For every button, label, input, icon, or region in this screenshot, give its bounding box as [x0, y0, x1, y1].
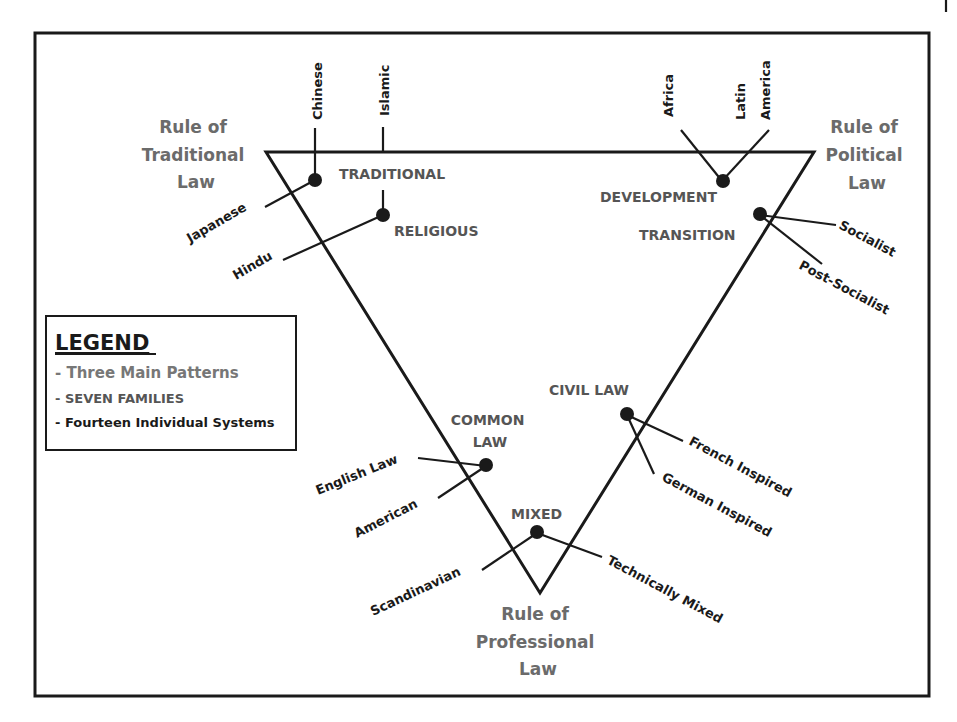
pattern-professional: Rule of Professional Law: [476, 604, 601, 679]
dot-common-law: [479, 458, 493, 472]
system-scandinavian: Scandinavian: [368, 564, 463, 619]
dot-religious: [376, 208, 390, 222]
pattern-traditional: Rule of Traditional Law: [142, 117, 251, 192]
system-technically-mixed: Technically Mixed: [605, 552, 726, 626]
system-post-socialist: Post-Socialist: [797, 257, 892, 317]
family-civil-law: CIVIL LAW: [549, 382, 629, 398]
family-transition: TRANSITION: [639, 227, 736, 243]
system-american: American: [352, 496, 420, 541]
system-english-law: English Law: [314, 451, 400, 497]
system-africa: Africa: [661, 74, 676, 117]
legal-families-diagram: Rule of Traditional Law Rule of Politica…: [0, 0, 957, 722]
legend-title: LEGEND: [55, 331, 149, 355]
connector-lines: [265, 127, 836, 570]
dot-traditional: [308, 173, 322, 187]
legend-item-patterns: - Three Main Patterns: [55, 364, 239, 382]
family-development: DEVELOPMENT: [600, 189, 717, 205]
family-mixed: MIXED: [511, 506, 562, 522]
family-common-law: COMMON LAW: [451, 412, 530, 450]
pattern-political: Rule of Political Law: [825, 117, 908, 193]
dot-transition: [753, 207, 767, 221]
dot-development: [716, 174, 730, 188]
system-japanese: Japanese: [183, 199, 249, 246]
system-chinese: Chinese: [310, 62, 325, 120]
system-socialist: Socialist: [837, 217, 899, 259]
system-hindu: Hindu: [230, 248, 275, 283]
system-america: America: [758, 60, 773, 120]
legend-item-systems: - Fourteen Individual Systems: [55, 415, 275, 430]
system-latin: Latin: [733, 83, 748, 120]
system-islamic: Islamic: [377, 64, 392, 116]
dot-mixed: [530, 525, 544, 539]
family-traditional: TRADITIONAL: [339, 166, 445, 182]
dot-civil-law: [620, 407, 634, 421]
legend: LEGEND - Three Main Patterns - SEVEN FAM…: [46, 316, 296, 450]
legend-item-families: - SEVEN FAMILIES: [55, 391, 184, 406]
family-religious: RELIGIOUS: [394, 223, 479, 239]
